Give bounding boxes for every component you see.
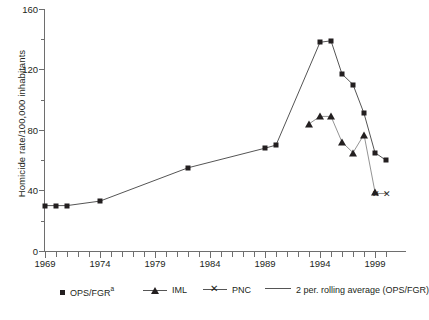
x-axis-tick-minor: [298, 252, 299, 257]
x-axis-tick-minor: [78, 252, 79, 257]
data-point-square: [318, 40, 323, 45]
y-axis-tick-minor: [41, 39, 44, 40]
y-tick-label: 160: [22, 5, 38, 15]
y-axis-tick-minor: [41, 160, 44, 161]
x-marker-icon: ✕: [203, 285, 227, 294]
legend-item-rolling-average[interactable]: 2 per. rolling average (OPS/FGR): [265, 283, 429, 296]
data-point-square: [263, 146, 268, 151]
data-point-square: [65, 203, 70, 208]
data-point-square: [329, 38, 334, 43]
square-marker-icon: [60, 290, 65, 295]
y-axis-tick-labels: 160 120 80 40 0: [0, 0, 38, 260]
x-axis-tick-minor: [188, 252, 189, 257]
x-axis-tick-minor: [386, 252, 387, 257]
y-axis-tick: [39, 9, 44, 10]
series-lines: [45, 9, 405, 251]
data-point-square: [340, 72, 345, 77]
x-tick-label: 1979: [144, 259, 165, 269]
x-axis-line: [44, 251, 406, 252]
y-axis-tick: [39, 190, 44, 191]
x-tick-label: 1974: [89, 259, 110, 269]
data-point-x: ✕: [372, 190, 379, 197]
y-tick-label: 0: [33, 247, 38, 257]
data-point-triangle: [338, 139, 346, 146]
x-tick-label: 1999: [364, 259, 385, 269]
data-point-triangle: [305, 120, 313, 127]
x-axis-tick-minor: [111, 252, 112, 257]
data-point-square: [351, 82, 356, 87]
x-axis-tick-minor: [122, 252, 123, 257]
legend-label: OPS/FGR: [70, 288, 111, 298]
x-axis-tick-minor: [331, 252, 332, 257]
legend-superscript: a: [111, 285, 115, 292]
x-tick-label: 1984: [199, 259, 220, 269]
x-axis-tick-minor: [342, 252, 343, 257]
data-point-square: [98, 199, 103, 204]
data-point-triangle: [327, 113, 335, 120]
line-marker-icon: [265, 288, 291, 289]
x-axis-tick-minor: [243, 252, 244, 257]
figure-caption: [0, 309, 416, 320]
x-axis-tick-minor: [144, 252, 145, 257]
data-point-square: [186, 165, 191, 170]
x-axis-tick-minor: [287, 252, 288, 257]
x-axis-tick-minor: [221, 252, 222, 257]
legend-item-pnc[interactable]: ✕PNC: [203, 283, 251, 296]
x-tick-label: 1994: [309, 259, 330, 269]
x-axis-tick-minor: [276, 252, 277, 257]
series-line: [45, 41, 386, 206]
legend-label: 2 per. rolling average (OPS/FGR): [296, 285, 429, 295]
x-tick-label: 1969: [34, 259, 55, 269]
y-tick-label: 40: [27, 186, 38, 196]
x-axis-tick-minor: [364, 252, 365, 257]
data-point-square: [362, 111, 367, 116]
y-axis-tick-minor: [41, 221, 44, 222]
legend-item-ops-fgr[interactable]: OPS/FGRa: [60, 283, 114, 299]
plot-area: ✕✕: [45, 9, 405, 251]
data-point-triangle: [360, 131, 368, 138]
x-axis-tick-minor: [166, 252, 167, 257]
x-axis-tick-minor: [353, 252, 354, 257]
x-axis-tick-minor: [56, 252, 57, 257]
y-tick-label: 80: [27, 126, 38, 136]
data-point-square: [384, 158, 389, 163]
y-tick-label: 120: [22, 65, 38, 75]
x-axis-tick-minor: [199, 252, 200, 257]
legend-label: PNC: [232, 285, 251, 295]
data-point-square: [274, 143, 279, 148]
x-axis-tick-minor: [67, 252, 68, 257]
legend-item-iml[interactable]: IML: [143, 283, 187, 296]
y-axis-tick-minor: [41, 100, 44, 101]
chart-legend: OPS/FGRa IML ✕PNC 2 per. rolling average…: [0, 283, 416, 299]
data-point-triangle: [316, 113, 324, 120]
data-point-square: [43, 203, 48, 208]
x-tick-label: 1989: [254, 259, 275, 269]
x-axis-tick-minor: [89, 252, 90, 257]
triangle-marker-icon: [143, 286, 167, 294]
x-axis-tick-minor: [254, 252, 255, 257]
legend-label: IML: [172, 285, 187, 295]
series-line: [309, 116, 375, 192]
y-axis-tick: [39, 69, 44, 70]
y-axis-tick: [39, 130, 44, 131]
x-axis-tick-minor: [232, 252, 233, 257]
x-axis-tick-minor: [177, 252, 178, 257]
data-point-square: [54, 203, 59, 208]
data-point-square: [373, 150, 378, 155]
data-point-x: ✕: [383, 190, 390, 197]
x-axis-tick-minor: [309, 252, 310, 257]
x-axis-tick-labels: 1969 1974 1979 1984 1989 1994 1999: [0, 259, 416, 273]
data-point-triangle: [349, 149, 357, 156]
x-axis-tick-minor: [133, 252, 134, 257]
